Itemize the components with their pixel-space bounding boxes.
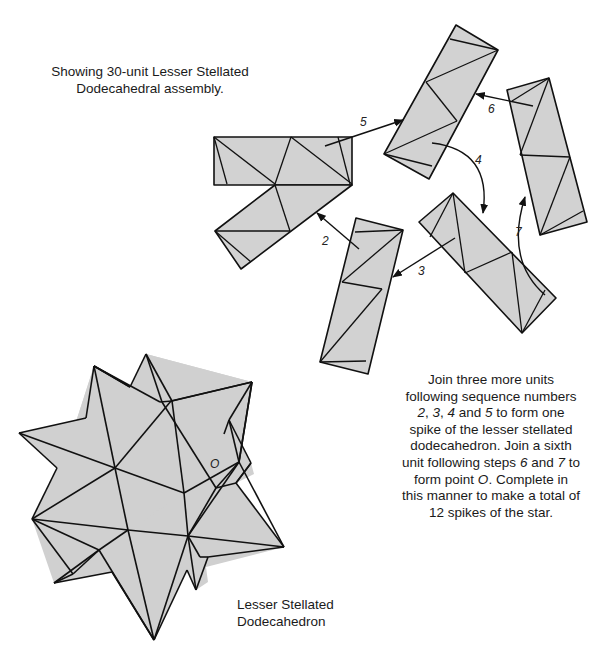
instructions-text: Join three more unitsfollowing sequence … [398, 372, 584, 521]
instructions-line-6: unit following steps 6 and 7 to [398, 455, 584, 472]
origami-units [214, 25, 587, 374]
instructions-line-4: spike of the lesser stellated [398, 422, 584, 439]
figure-caption-line-2: Dodecahedron [237, 614, 377, 631]
diagram-title-line-1: Showing 30-unit Lesser Stellated [40, 64, 260, 81]
assembly-diagram: 234567 O [0, 0, 608, 654]
step-number-label: 4 [475, 153, 482, 167]
instructions-line-1: Join three more units [398, 372, 584, 389]
diagram-title-line-2: Dodecahedral assembly. [40, 81, 260, 98]
unit-step-6-source [507, 78, 587, 235]
instructions-line-7: form point O. Complete in [398, 472, 584, 489]
step-number-label: 7 [515, 225, 523, 239]
instructions-line-2: following sequence numbers [398, 389, 584, 406]
instructions-line-5: dodecahedron. Join a sixth [398, 438, 584, 455]
step-number-label: 3 [418, 264, 425, 278]
point-o-label: O [210, 457, 219, 471]
step-number-label: 2 [321, 234, 329, 248]
step-number-label: 5 [360, 115, 367, 129]
figure-caption-line-1: Lesser Stellated [237, 597, 377, 614]
unit-outline [215, 185, 352, 269]
step-number-label: 6 [488, 102, 495, 116]
instructions-line-3: 2, 3, 4 and 5 to form one [398, 405, 584, 422]
figure-caption: Lesser Stellated Dodecahedron [237, 597, 377, 630]
step-3-arrow: 3 [393, 238, 455, 278]
instructions-line-8: this manner to make a total of [398, 488, 584, 505]
unit-step-3-target [320, 218, 403, 374]
diagram-title: Showing 30-unit Lesser Stellated Dodecah… [40, 64, 260, 97]
unit-base-lower [215, 185, 352, 269]
instructions-line-9: 12 spikes of the star. [398, 505, 584, 522]
